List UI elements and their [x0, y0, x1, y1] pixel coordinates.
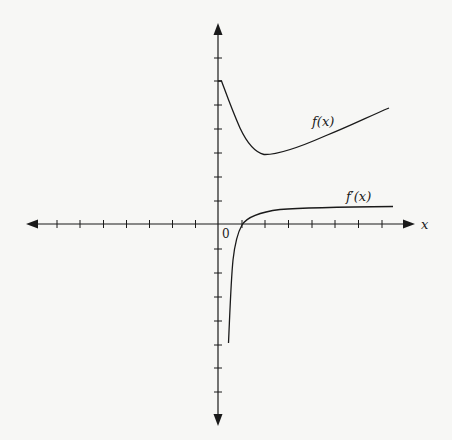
x-axis [26, 220, 415, 229]
curve-f-prime [229, 207, 394, 344]
f-label: f(x) [311, 114, 334, 129]
y-axis-down-arrow-icon [214, 414, 223, 426]
x-axis-label: x [421, 217, 429, 232]
curve-f [218, 81, 389, 155]
f-prime-label: f′(x) [345, 189, 371, 204]
y-axis-up-arrow-icon [214, 23, 223, 35]
function-graph: 0 x f(x) f′(x) [0, 0, 452, 440]
x-axis-right-arrow-icon [403, 220, 415, 229]
x-axis-left-arrow-icon [26, 220, 38, 229]
origin-label: 0 [222, 227, 230, 241]
